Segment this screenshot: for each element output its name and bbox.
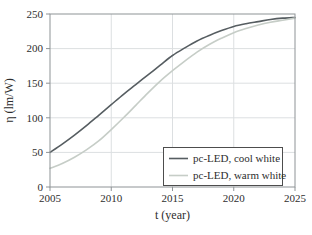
legend: pc-LED, cool white pc-LED, warm white: [164, 148, 287, 186]
led-efficiency-chart: 20052010201520202025050100150200250 t (y…: [0, 0, 312, 235]
y-axis-label: η (lm/W): [2, 78, 16, 123]
y-tick-label: 250: [27, 8, 44, 20]
chart-canvas: 20052010201520202025050100150200250 t (y…: [0, 0, 312, 235]
x-tick-label: 2020: [223, 192, 246, 204]
legend-label-warm-white: pc-LED, warm white: [193, 169, 286, 181]
legend-label-cool-white: pc-LED, cool white: [193, 152, 280, 164]
y-tick-label: 150: [27, 77, 44, 89]
y-tick-label: 100: [27, 112, 44, 124]
y-tick-label: 200: [27, 42, 44, 54]
x-tick-label: 2025: [284, 192, 307, 204]
y-tick-label: 0: [38, 181, 44, 193]
x-axis-label: t (year): [155, 208, 190, 222]
x-tick-label: 2015: [162, 192, 185, 204]
y-tick-label: 50: [32, 146, 44, 158]
x-tick-label: 2010: [100, 192, 123, 204]
x-tick-label: 2005: [39, 192, 62, 204]
